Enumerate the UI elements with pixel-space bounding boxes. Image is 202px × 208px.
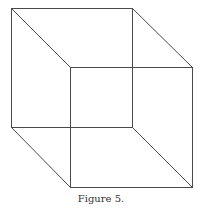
cube-edge <box>133 9 193 68</box>
cube-edges <box>12 9 193 188</box>
cube-edge <box>133 128 193 188</box>
cube-edge <box>12 9 71 68</box>
figure-caption: Figure 5. <box>0 192 202 206</box>
cube-edge <box>12 128 71 188</box>
necker-cube-figure <box>0 0 202 192</box>
